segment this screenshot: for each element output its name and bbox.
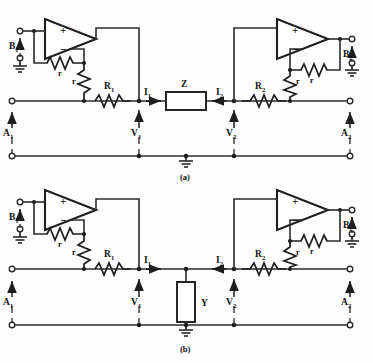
panel-b-bottom-ground-icon	[179, 325, 193, 336]
panel-b-left-opamp-minus: −	[60, 214, 66, 226]
panel-b-label-left-feedback-r: r	[58, 240, 62, 249]
panel-b-label-V1: V1	[131, 297, 141, 309]
panel-b-Y-element	[177, 282, 195, 322]
panel-b-label-I1: I1	[144, 255, 151, 267]
panel-b-V1-bottom-node	[137, 323, 142, 328]
panel-b-left-opamp-output-wire	[96, 199, 139, 269]
panel-a-label-right-shunt-r: r	[296, 77, 300, 86]
circuit-diagram-svg: + − + − + − + − B1 A1 B2 A2 r r R1 r r R…	[0, 0, 373, 363]
panel-a-label-right-feedback-r: r	[310, 76, 314, 85]
panel-b-caption: (b)	[180, 344, 191, 354]
panel-b-left-feedback-resistor	[47, 228, 84, 240]
panel-a-label-A2: A2	[341, 128, 352, 140]
panel-b-terminal-A2-bottom[interactable]	[347, 322, 353, 328]
panel-a-terminal-A2-top[interactable]	[347, 98, 353, 104]
panel-b-right-opamp-body	[277, 190, 328, 230]
panel-b-Y-rail-node	[184, 267, 189, 272]
panel-b-terminal-A2-top[interactable]	[347, 266, 353, 272]
panel-a-left-opamp-plus: +	[60, 24, 66, 36]
panel-a-label-left-feedback-r: r	[58, 69, 62, 78]
panel-a-terminal-B2-top[interactable]	[349, 36, 355, 42]
panel-b-right-opamp-minus: −	[292, 214, 298, 226]
panel-a-Z-element	[166, 92, 206, 110]
panel-b	[9, 190, 359, 336]
panel-a-label-A1: A1	[3, 128, 13, 140]
panel-a-right-shunt-resistor	[284, 70, 296, 101]
panel-b-left-shunt-rail-node	[82, 267, 86, 271]
panel-b-V2-bottom-node	[232, 323, 237, 328]
panel-a-label-B1: B1	[9, 41, 19, 53]
panel-b-terminal-B2-top[interactable]	[349, 207, 355, 213]
panel-a-right-ground-icon	[345, 66, 359, 76]
panel-b-label-Y: Y	[201, 298, 208, 308]
panel-a-right-opamp-plus: +	[292, 24, 298, 36]
panel-b-terminal-B1-top[interactable]	[17, 199, 23, 205]
panel-a-right-opamp-minus: −	[292, 43, 298, 55]
panel-b-label-R1: R1	[104, 249, 114, 261]
panel-a-label-V2: V2	[226, 128, 237, 140]
panel-a-right-feedback-resistor	[290, 64, 327, 76]
panel-a-left-shunt-resistor	[78, 63, 90, 101]
panel-a-V2-bottom-node	[232, 154, 237, 159]
panel-a-label-R1: R1	[104, 81, 114, 93]
panel-b-right-shunt-resistor	[284, 241, 296, 269]
panel-a-bottom-ground-node	[184, 154, 189, 159]
panel-b-left-opamp-plus: +	[60, 195, 66, 207]
panel-a-label-I1: I1	[144, 87, 151, 99]
figure-canvas: + − + − + − + − B1 A1 B2 A2 r r R1 r r R…	[0, 0, 373, 363]
panel-b-left-opamp-body	[45, 190, 96, 230]
panel-b-terminal-A1-top[interactable]	[9, 266, 15, 272]
panel-a-right-shunt-rail-node	[288, 99, 292, 103]
panel-b-right-opamp-plus: +	[292, 195, 298, 207]
panel-a-V1-node	[137, 99, 142, 104]
panel-b-label-left-shunt-r: r	[72, 248, 76, 257]
panel-b-terminal-A1-bottom[interactable]	[9, 322, 15, 328]
panel-b-label-right-shunt-r: r	[296, 248, 300, 257]
panel-b-left-ground-icon	[13, 232, 27, 243]
panel-a-label-V1: V1	[131, 128, 141, 140]
panel-a-left-feedback-resistor	[47, 57, 84, 69]
panel-a-right-opamp-body	[277, 19, 328, 59]
panel-b-left-shunt-resistor	[78, 234, 90, 269]
panel-b-label-A1: A1	[3, 297, 13, 309]
panel-a-right-feedback-right-leg	[327, 39, 340, 70]
panel-b-right-feedback-right-leg	[327, 210, 340, 241]
panel-a-V1-bottom-node	[137, 154, 142, 159]
panel-a-left-opamp-output-wire	[96, 28, 139, 101]
panel-b-right-feedback-resistor	[290, 235, 327, 247]
panel-b-label-R2: R2	[255, 249, 266, 261]
panel-a-label-left-shunt-r: r	[72, 77, 76, 86]
panel-b-right-shunt-rail-node	[288, 267, 292, 271]
panel-b-label-I2: I2	[216, 255, 224, 267]
panel-a	[9, 19, 359, 167]
panel-a-label-Z: Z	[181, 79, 187, 89]
panel-b-label-A2: A2	[341, 297, 352, 309]
panel-a-left-shunt-rail-node	[82, 99, 86, 103]
panel-b-V1-node	[137, 267, 142, 272]
panel-a-label-I2: I2	[216, 87, 224, 99]
panel-a-terminal-A1-bottom[interactable]	[9, 153, 15, 159]
panel-a-left-opamp-minus: −	[60, 43, 66, 55]
panel-a-terminal-A1-top[interactable]	[9, 98, 15, 104]
panel-a-left-ground-icon	[13, 61, 27, 72]
panel-a-terminal-B1-top[interactable]	[17, 28, 23, 34]
panel-b-left-inverting-pin-wire	[71, 220, 84, 234]
panel-a-left-inverting-pin-wire	[71, 49, 84, 63]
panel-a-left-opamp-body	[45, 19, 96, 59]
panel-a-terminal-A2-bottom[interactable]	[347, 153, 353, 159]
panel-b-label-V2: V2	[226, 297, 237, 309]
panel-a-caption: (a)	[180, 172, 190, 182]
panel-b-label-right-feedback-r: r	[310, 247, 314, 256]
panel-b-right-ground-icon	[345, 237, 359, 247]
panel-b-label-B1: B1	[9, 212, 19, 224]
panel-a-label-R2: R2	[255, 81, 266, 93]
